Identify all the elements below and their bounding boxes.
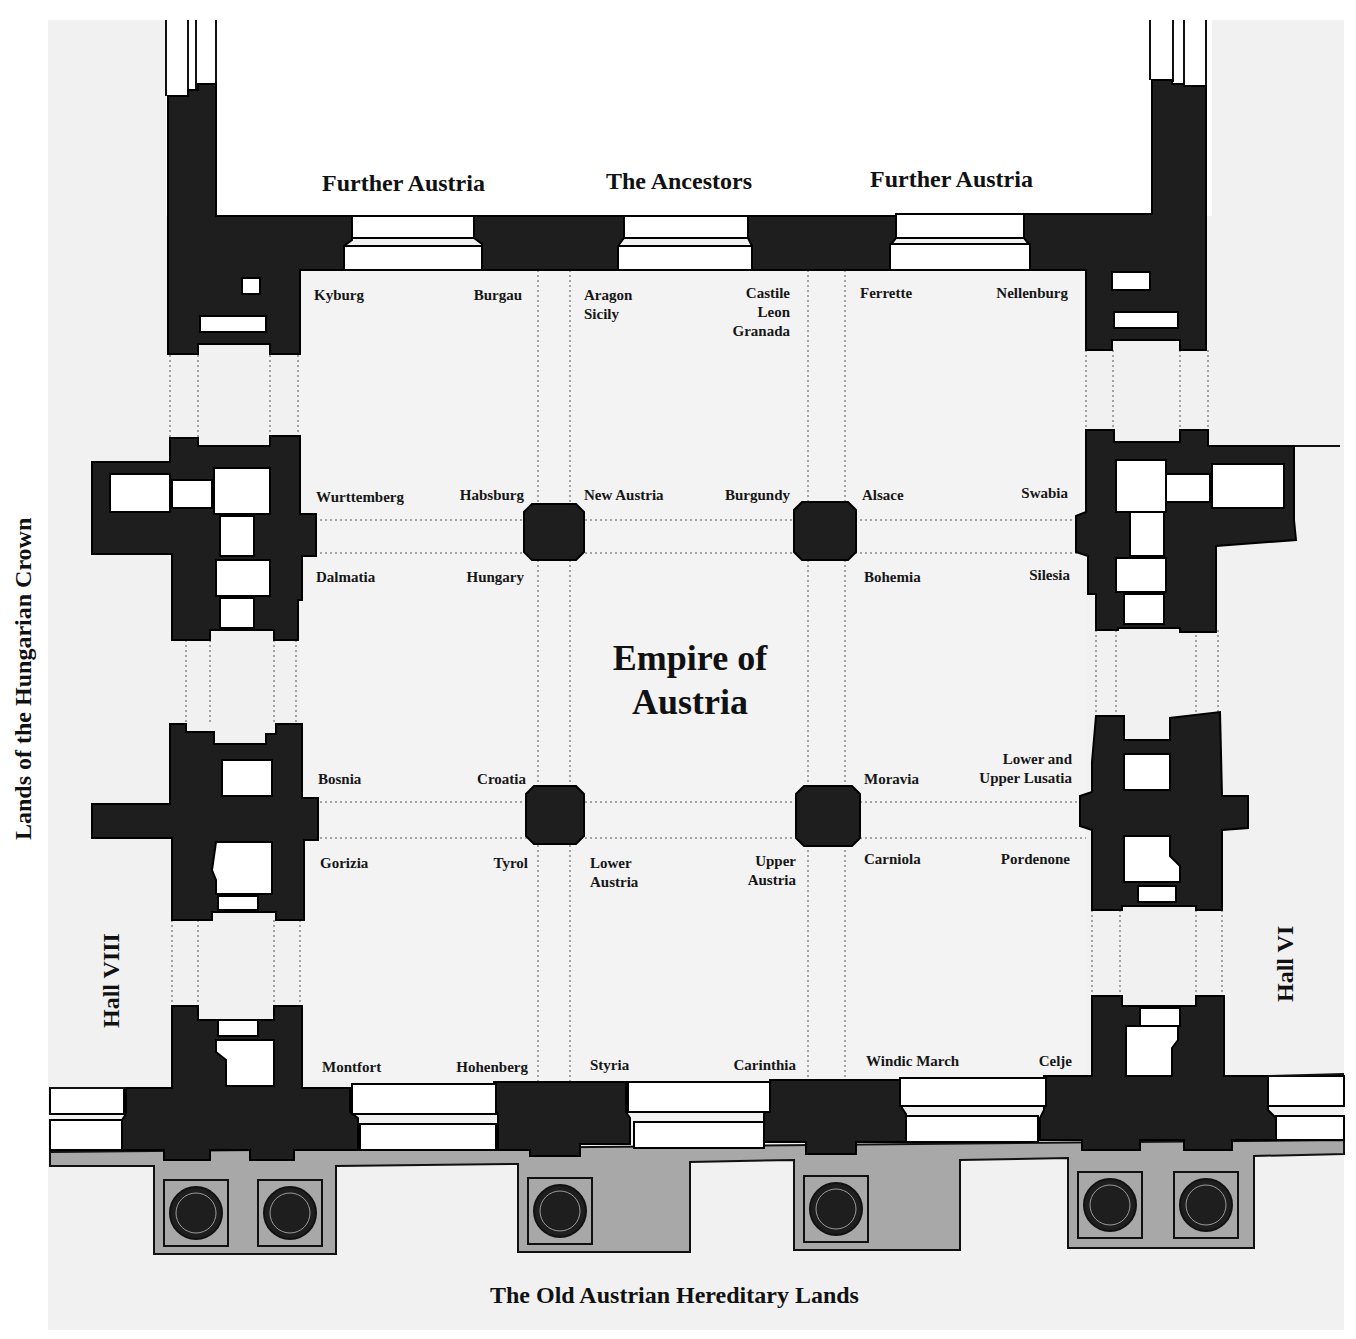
region-label: Gorizia <box>320 854 368 873</box>
region-label: Hungary <box>434 568 524 587</box>
region-label: Styria <box>590 1056 629 1075</box>
region-label: Moravia <box>864 770 919 789</box>
region-label: New Austria <box>584 486 664 505</box>
region-label-multiline: Aragon Sicily <box>584 286 632 324</box>
region-label: Kyburg <box>314 286 364 305</box>
title-line-2: Austria <box>570 680 810 724</box>
region-label: Swabia <box>988 484 1068 503</box>
hall-label-viii: Hall VIII <box>98 933 125 1028</box>
region-label: Carinthia <box>706 1056 796 1075</box>
column-base <box>810 1183 862 1235</box>
region-label: Habsburg <box>434 486 524 505</box>
region-label: Windic March <box>866 1052 959 1071</box>
region-label: Hohenberg <box>430 1058 528 1077</box>
title-line-1: Empire of <box>570 636 810 680</box>
column-base <box>534 1185 586 1237</box>
region-label: Bohemia <box>864 568 921 587</box>
column-base <box>264 1187 316 1239</box>
column-base <box>1084 1179 1136 1231</box>
region-label-multiline: Castile Leon Granada <box>710 284 790 341</box>
section-label-further-austria-right: Further Austria <box>870 166 1033 193</box>
region-label: Burgau <box>452 286 522 305</box>
wall-top-pier-2 <box>748 216 896 270</box>
wall-top-pier-1 <box>474 216 624 270</box>
column-base <box>1180 1179 1232 1231</box>
region-label-multiline: Lower and Upper Lusatia <box>960 750 1072 788</box>
region-label: Croatia <box>444 770 526 789</box>
section-label-further-austria-left: Further Austria <box>322 170 485 197</box>
region-label: Celje <box>1010 1052 1072 1071</box>
region-label: Dalmatia <box>316 568 375 587</box>
section-label-hungarian-crown: Lands of the Hungarian Crown <box>10 518 37 840</box>
wall-bottom-pier-1 <box>494 1082 630 1156</box>
region-label-multiline: Upper Austria <box>716 852 796 890</box>
region-label: Wurttemberg <box>316 488 404 507</box>
pillar-se <box>796 786 860 846</box>
region-label: Pordenone <box>978 850 1070 869</box>
region-label: Bosnia <box>318 770 361 789</box>
section-label-old-austrian-hereditary-lands: The Old Austrian Hereditary Lands <box>490 1282 859 1309</box>
region-label: Ferrette <box>860 284 912 303</box>
region-label: Carniola <box>864 850 921 869</box>
pillar-ne <box>794 502 856 560</box>
region-label: Nellenburg <box>968 284 1068 303</box>
pillar-sw <box>526 786 584 844</box>
section-label-ancestors: The Ancestors <box>606 168 752 195</box>
wall-bottom-pier-2 <box>764 1080 906 1154</box>
region-label: Burgundy <box>700 486 790 505</box>
region-label: Tyrol <box>448 854 528 873</box>
region-label: Silesia <box>990 566 1070 585</box>
region-label-multiline: Lower Austria <box>590 854 638 892</box>
region-label: Alsace <box>862 486 904 505</box>
pillar-nw <box>524 504 584 560</box>
region-label: Montfort <box>322 1058 381 1077</box>
diagram-title: Empire of Austria <box>570 636 810 724</box>
column-base <box>170 1187 222 1239</box>
hall-label-vi: Hall VI <box>1272 926 1299 1002</box>
